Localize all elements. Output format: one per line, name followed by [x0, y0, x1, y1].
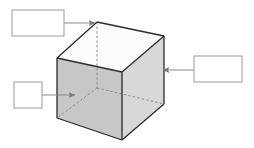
- label-box-left[interactable]: [14, 82, 42, 108]
- label-box-left-group[interactable]: [14, 82, 42, 108]
- cube: [57, 22, 164, 140]
- cube-diagram-figure: [0, 0, 254, 148]
- label-box-right-group[interactable]: [194, 56, 242, 82]
- label-box-right[interactable]: [194, 56, 242, 82]
- label-box-top-left[interactable]: [12, 10, 64, 36]
- label-box-top-left-group[interactable]: [12, 10, 64, 36]
- diagram-canvas: [0, 0, 254, 148]
